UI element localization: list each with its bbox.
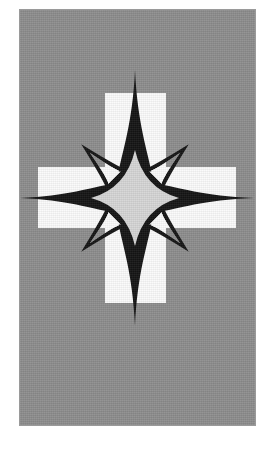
emblem-canvas (0, 0, 269, 449)
emblem-artwork (20, 10, 255, 425)
gray-plate (20, 10, 255, 425)
plate-grain (20, 10, 255, 425)
